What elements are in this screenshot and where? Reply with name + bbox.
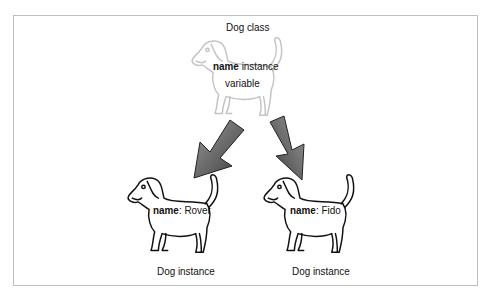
instance-field-separator: : <box>316 204 319 216</box>
instance-caption: Dog instance <box>292 265 350 277</box>
instance-field: name: Rover <box>153 204 211 216</box>
instance-caption: Dog instance <box>157 265 215 277</box>
instance-field: name: Fido <box>290 204 341 216</box>
arrow-down-right-icon <box>264 120 324 180</box>
class-field-name: name <box>213 60 239 72</box>
instance-field-separator: : <box>179 204 182 216</box>
instance-field-value: Rover <box>184 204 210 216</box>
class-field-desc-2: variable <box>225 77 260 89</box>
arrow-down-left-icon <box>190 120 250 180</box>
instance-field-name: name <box>153 204 179 216</box>
class-field-desc-1: instance <box>242 60 279 72</box>
class-field-line1: name instance <box>213 60 279 72</box>
instance-field-name: name <box>290 204 316 216</box>
class-title: Dog class <box>226 21 269 33</box>
instance-field-value: Fido <box>321 204 340 216</box>
